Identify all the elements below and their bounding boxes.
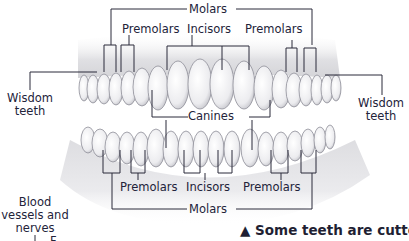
label-molars-top: Molars [189, 3, 227, 16]
label-premolars-top-left: Premolars [122, 23, 179, 36]
figure-caption: ▲ Some teeth are cutters (incisors). [240, 222, 409, 238]
label-wisdom-right: Wisdom teeth [354, 97, 408, 123]
label-incisors-top: Incisors [187, 23, 231, 36]
label-premolars-top-right: Premolars [245, 23, 302, 36]
blood-line3: nerves [0, 222, 70, 235]
label-partial-bottom: F [50, 235, 57, 241]
label-wisdom-left: Wisdom teeth [4, 92, 56, 118]
wisdom-left-line2: teeth [4, 105, 56, 118]
label-premolars-bottom-right: Premolars [243, 181, 300, 194]
label-blood-vessels: Blood vessels and nerves [0, 196, 70, 235]
wisdom-right-line2: teeth [354, 110, 408, 123]
label-molars-bottom: Molars [189, 203, 227, 216]
label-canines: Canines [188, 110, 234, 123]
label-premolars-bottom-left: Premolars [120, 181, 177, 194]
label-incisors-bottom: Incisors [186, 181, 230, 194]
lower-teeth [81, 125, 335, 167]
